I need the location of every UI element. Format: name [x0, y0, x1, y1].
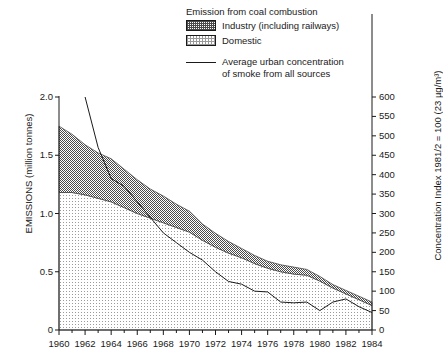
- y2-axis-tick-label: 600: [379, 91, 395, 102]
- y-axis-tick-label: 1.5: [17, 149, 53, 160]
- y2-axis-tick-label: 550: [379, 110, 395, 121]
- y-axis-tick-label: 0: [17, 324, 53, 335]
- y-axis-tick-label: 0.5: [17, 266, 53, 277]
- y2-axis-tick-label: 100: [379, 285, 395, 296]
- y2-axis-tick-label: 150: [379, 266, 395, 277]
- domestic-area: [59, 193, 372, 330]
- y2-axis-tick-label: 200: [379, 246, 395, 257]
- y2-axis-tick-label: 50: [379, 305, 390, 316]
- y2-axis-tick-label: 400: [379, 169, 395, 180]
- y2-axis-tick-label: 350: [379, 188, 395, 199]
- y-axis-tick-label: 1.0: [17, 208, 53, 219]
- y2-axis-tick-label: 500: [379, 130, 395, 141]
- y2-axis-tick-label: 0: [379, 324, 384, 335]
- x-axis-tick-label: 1984: [352, 338, 392, 349]
- y2-axis-tick-label: 300: [379, 208, 395, 219]
- y-axis-tick-label: 2.0: [17, 91, 53, 102]
- y2-axis-tick-label: 250: [379, 227, 395, 238]
- y2-axis-tick-label: 450: [379, 149, 395, 160]
